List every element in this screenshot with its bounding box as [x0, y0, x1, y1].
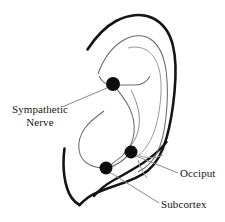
tragus-path	[79, 111, 106, 168]
ear-acupuncture-diagram: Sympathetic Nerve Occiput Subcortex	[0, 0, 225, 222]
label-occiput: Occiput	[180, 167, 216, 180]
label-sympathetic-nerve: Sympathetic Nerve	[9, 103, 71, 128]
point-marker-sympathetic-nerve	[106, 77, 120, 91]
helix-outline-path	[80, 15, 176, 205]
earlobe-outline-path	[64, 149, 80, 206]
point-marker-occiput	[125, 146, 138, 159]
label-subcortex: Subcortex	[161, 198, 207, 211]
point-marker-subcortex	[100, 162, 113, 175]
